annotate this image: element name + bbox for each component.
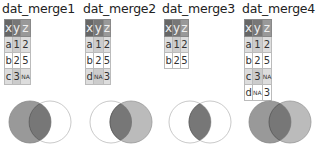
cell: a: [86, 37, 94, 53]
header-z: z: [181, 20, 188, 37]
venn-full-join-icon: [240, 97, 320, 147]
cell: 2: [181, 37, 188, 53]
cell: 2: [94, 53, 104, 69]
cell: 1: [13, 37, 21, 53]
cell: 2: [13, 53, 21, 69]
cell: 3: [103, 69, 110, 85]
cell: 2: [103, 37, 110, 53]
panel-title: dat_merge4: [242, 1, 315, 16]
data-table: xyz a12 b25 c3NA: [4, 19, 31, 85]
cell: 5: [262, 53, 272, 69]
cell: 3: [253, 69, 263, 85]
header-x: x: [165, 20, 173, 37]
cell: c: [5, 69, 13, 85]
panel-title: dat_merge2: [83, 1, 156, 16]
panel-title: dat_merge1: [2, 1, 75, 16]
cell: b: [245, 53, 253, 69]
cell: b: [5, 53, 13, 69]
header-z: z: [21, 20, 31, 37]
cell: b: [165, 53, 173, 69]
cell: 1: [94, 37, 104, 53]
cell: a: [5, 37, 13, 53]
header-x: x: [245, 20, 253, 37]
header-y: y: [173, 20, 181, 37]
panel-title: dat_merge3: [162, 1, 235, 16]
data-table: xyz a12 b25 c3NA dNA3: [244, 19, 272, 101]
cell: 1: [253, 37, 263, 53]
cell: b: [86, 53, 94, 69]
cell: 5: [21, 53, 31, 69]
cell: 5: [181, 53, 188, 69]
header-y: y: [94, 20, 104, 37]
header-x: x: [86, 20, 94, 37]
cell-na: NA: [262, 69, 272, 85]
data-table: xyz a12 b25 dNA3: [85, 19, 111, 85]
venn-inner-join-icon: [160, 97, 240, 147]
cell: c: [245, 69, 253, 85]
cell: 1: [173, 37, 181, 53]
cell-na: NA: [94, 69, 104, 85]
cell: 2: [21, 37, 31, 53]
data-table: xyz a12 b25: [164, 19, 189, 69]
cell: a: [165, 37, 173, 53]
venn-right-join-icon: [81, 97, 161, 147]
header-y: y: [13, 20, 21, 37]
header-x: x: [5, 20, 13, 37]
cell: 2: [173, 53, 181, 69]
cell: 5: [103, 53, 110, 69]
header-y: y: [253, 20, 263, 37]
header-z: z: [262, 20, 272, 37]
cell: d: [86, 69, 94, 85]
cell: 2: [262, 37, 272, 53]
cell-na: NA: [21, 69, 31, 85]
cell: a: [245, 37, 253, 53]
cell: 3: [13, 69, 21, 85]
cell: 2: [253, 53, 263, 69]
venn-left-join-icon: [0, 97, 80, 147]
header-z: z: [103, 20, 110, 37]
